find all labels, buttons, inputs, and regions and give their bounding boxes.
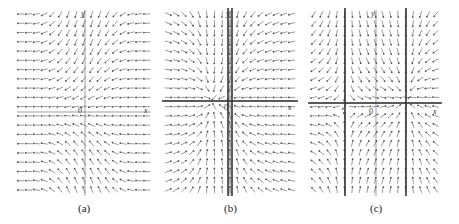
arrow-head-icon (327, 34, 329, 36)
arrow-head-icon (25, 106, 27, 108)
arrow-head-icon (392, 105, 394, 107)
arrow-head-icon (56, 106, 58, 108)
arrow-head-icon (41, 142, 43, 144)
arrow-head-icon (369, 89, 371, 91)
arrow-head-icon (185, 187, 187, 189)
arrow-head-icon (392, 89, 394, 91)
field-arrow (91, 11, 93, 17)
arrow-head-icon (170, 97, 172, 99)
arrow-head-icon (265, 87, 267, 89)
arrow-head-icon (359, 186, 361, 188)
field-arrow (98, 151, 102, 156)
field-arrow (336, 11, 337, 17)
field-arrow (251, 169, 255, 173)
field-arrow (221, 85, 224, 90)
field-arrow (34, 162, 40, 163)
field-arrow (189, 30, 193, 35)
field-arrow (196, 106, 202, 107)
field-arrow (243, 58, 247, 62)
field-arrow (50, 152, 56, 154)
field-arrow (244, 160, 248, 165)
field-arrow (372, 97, 378, 99)
field-arrow (427, 169, 430, 174)
arrow-head-icon (199, 177, 201, 179)
field-arrow (289, 13, 295, 14)
field-arrow (206, 48, 207, 54)
field-arrow (251, 59, 256, 62)
field-arrow (352, 20, 353, 26)
arrow-head-icon (135, 23, 137, 25)
field-arrow (420, 11, 422, 17)
arrow-head-icon (49, 187, 51, 189)
arrow-head-icon (243, 43, 245, 45)
arrow-head-icon (17, 59, 19, 61)
arrow-head-icon (33, 124, 35, 126)
arrow-head-icon (25, 97, 27, 99)
field-arrow (242, 106, 248, 107)
field-arrow (113, 143, 119, 145)
arrow-head-icon (325, 106, 327, 108)
field-arrow (97, 124, 103, 126)
field-arrow (266, 170, 272, 172)
arrow-head-icon (242, 97, 244, 99)
field-arrow (75, 39, 77, 45)
arrow-head-icon (25, 87, 27, 89)
arrow-head-icon (280, 69, 282, 71)
field-arrow (90, 159, 93, 164)
field-arrow (243, 87, 249, 89)
arrow-head-icon (96, 141, 98, 143)
field-arrow (173, 152, 179, 154)
arrow-head-icon (369, 122, 371, 124)
arrow-head-icon (185, 15, 187, 17)
arrow-head-icon (221, 72, 223, 74)
field-arrow (289, 23, 295, 24)
panel-b-origin-label: 0 (224, 104, 228, 112)
arrow-head-icon (17, 50, 19, 52)
field-arrow (106, 49, 110, 54)
field-arrow (367, 30, 369, 36)
field-arrow (204, 105, 209, 108)
field-arrow (105, 124, 111, 126)
arrow-head-icon (258, 178, 260, 180)
field-arrow (120, 69, 126, 71)
field-arrow (173, 59, 179, 61)
field-arrow (273, 134, 279, 135)
arrow-head-icon (419, 44, 421, 46)
field-arrow (189, 68, 194, 71)
arrow-head-icon (104, 97, 106, 99)
arrow-head-icon (280, 97, 282, 99)
arrow-head-icon (135, 106, 137, 108)
field-arrow (121, 12, 126, 15)
arrow-head-icon (213, 158, 215, 160)
field-arrow (75, 58, 78, 63)
arrow-head-icon (425, 140, 427, 142)
field-arrow (367, 11, 368, 17)
arrow-head-icon (65, 159, 67, 161)
arrow-head-icon (143, 41, 145, 43)
arrow-head-icon (257, 97, 259, 99)
field-arrow (213, 104, 216, 109)
arrow-head-icon (390, 168, 392, 170)
field-arrow (198, 20, 200, 26)
arrow-head-icon (383, 149, 385, 151)
arrow-head-icon (170, 33, 172, 35)
arrow-head-icon (417, 88, 419, 90)
field-arrow (397, 159, 398, 165)
arrow-head-icon (352, 168, 354, 170)
field-arrow (198, 187, 200, 193)
arrow-head-icon (352, 149, 354, 151)
field-arrow (98, 58, 102, 63)
arrow-head-icon (74, 16, 76, 18)
arrow-head-icon (280, 124, 282, 126)
arrow-head-icon (250, 43, 252, 45)
arrow-head-icon (391, 80, 393, 82)
field-arrow (128, 143, 134, 144)
field-arrow (128, 79, 134, 80)
arrow-head-icon (213, 90, 215, 92)
arrow-head-icon (25, 13, 27, 15)
arrow-head-icon (206, 44, 208, 46)
arrow-head-icon (280, 151, 282, 153)
field-arrow (396, 113, 399, 118)
field-arrow (412, 131, 414, 137)
arrow-head-icon (250, 187, 252, 189)
